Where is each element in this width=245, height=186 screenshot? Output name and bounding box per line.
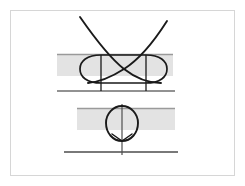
screenshot-root: Line diagram with two panels: an upper p…	[0, 0, 245, 186]
upper-panel	[57, 17, 175, 91]
upper-gray-band	[57, 54, 173, 76]
diagram-canvas	[0, 0, 245, 186]
lower-panel	[64, 104, 178, 155]
lower-gray-band	[77, 108, 175, 130]
